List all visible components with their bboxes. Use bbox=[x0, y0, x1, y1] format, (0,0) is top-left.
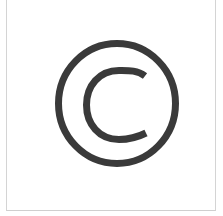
copyright-letter-c bbox=[87, 70, 147, 139]
copyright-outer-ring bbox=[59, 44, 176, 164]
copyright-icon bbox=[0, 0, 223, 216]
